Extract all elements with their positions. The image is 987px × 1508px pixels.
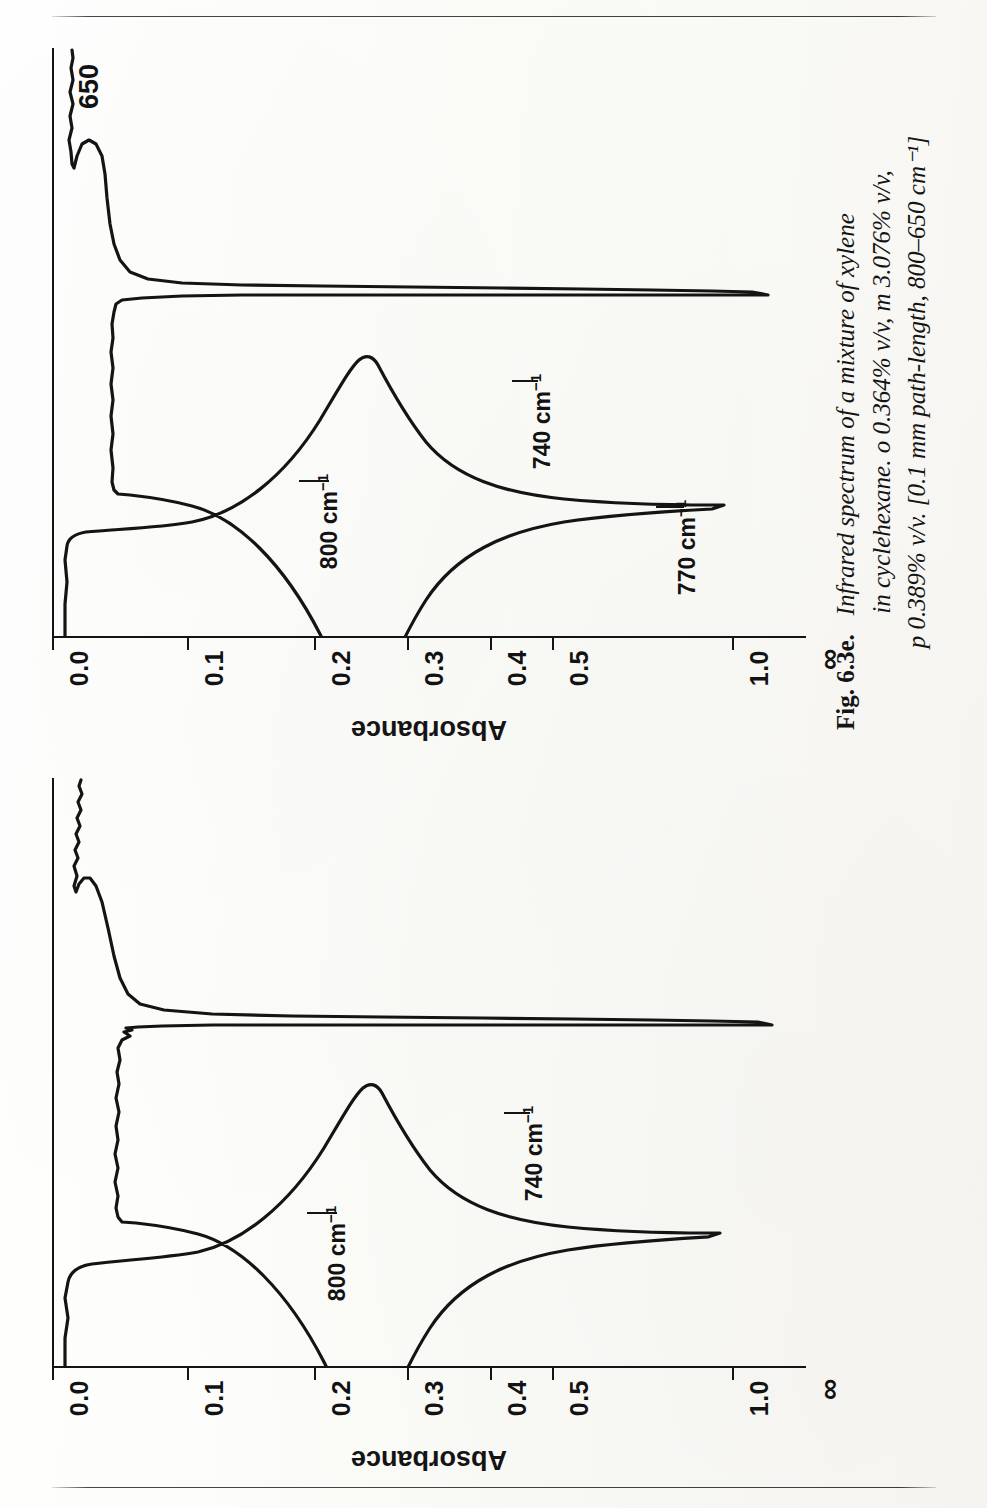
peak-label-e-740-sup: −1 bbox=[527, 374, 544, 391]
tick-label-e-2: 0.2 bbox=[327, 650, 356, 686]
tick-f-5 bbox=[552, 1368, 554, 1380]
tick-f-1 bbox=[187, 1368, 189, 1380]
peak-label-f-740-sup: −1 bbox=[519, 1106, 536, 1123]
caption-6-3e-text-0: Infrared spectrum of a mixture of xylene bbox=[832, 213, 859, 615]
peak-label-e-800: 800 cm−1 bbox=[314, 474, 343, 569]
tick-f-0 bbox=[52, 1368, 54, 1380]
tick-label-e-6: 1.0 bbox=[745, 650, 774, 686]
tick-e-0 bbox=[52, 638, 54, 650]
peak-label-e-770: 770 cm−1 bbox=[672, 500, 701, 595]
spectrum-trace-6-3f bbox=[52, 778, 806, 1368]
tick-label-f-3: 0.3 bbox=[420, 1380, 449, 1416]
tick-e-2 bbox=[314, 638, 316, 650]
peak-label-e-770-sup: −1 bbox=[672, 500, 689, 517]
tick-label-e-3: 0.3 bbox=[420, 650, 449, 686]
tick-e-6 bbox=[732, 638, 734, 650]
tick-label-f-0: 0.0 bbox=[65, 1380, 94, 1416]
peak-label-e-740-text: 740 cm bbox=[529, 391, 555, 469]
caption-6-3e-line-1: in cyclehexane. o 0.364% v/v, m 3.076% v… bbox=[864, 54, 900, 730]
peak-label-e-740: 740 cm−1 bbox=[527, 374, 556, 469]
tick-label-e-1: 0.1 bbox=[200, 650, 229, 686]
page-rule-top bbox=[52, 16, 936, 17]
plot-area-6-3e: 0.0 0.1 0.2 0.3 0.4 0.5 1.0 ∞ Absorbance… bbox=[52, 48, 806, 638]
figure-6-3e: 0.0 0.1 0.2 0.3 0.4 0.5 1.0 ∞ Absorbance… bbox=[0, 30, 987, 730]
tick-label-f-4: 0.4 bbox=[503, 1380, 532, 1416]
tick-e-4 bbox=[490, 638, 492, 650]
plot-area-6-3f: 0.0 0.1 0.2 0.3 0.4 0.5 1.0 ∞ Absorbance… bbox=[52, 778, 806, 1368]
peak-label-f-740: 740 cm−1 bbox=[519, 1106, 548, 1201]
peak-label-f-800-text: 800 cm bbox=[324, 1223, 350, 1301]
peak-label-f-800: 800 cm−1 bbox=[322, 1206, 351, 1301]
peak-label-f-800-sup: −1 bbox=[322, 1206, 339, 1223]
tick-label-e-5: 0.5 bbox=[565, 650, 594, 686]
figure-6-3f: 0.0 0.1 0.2 0.3 0.4 0.5 1.0 ∞ Absorbance… bbox=[0, 760, 987, 1460]
tick-e-5 bbox=[552, 638, 554, 650]
tick-f-6 bbox=[732, 1368, 734, 1380]
end-label-e-650: 650 bbox=[74, 64, 105, 109]
caption-6-3e-number: Fig. 6.3e. bbox=[832, 634, 859, 730]
peak-label-e-800-sup: −1 bbox=[314, 474, 331, 491]
axis-title-absorbance-f: Absorbance bbox=[52, 1444, 806, 1475]
tick-f-4 bbox=[490, 1368, 492, 1380]
page-rule-bottom bbox=[52, 1487, 936, 1488]
caption-6-3e-line-2: p 0.389% v/v. [0.1 mm path-length, 800–6… bbox=[899, 54, 935, 730]
tick-label-f-6: 1.0 bbox=[745, 1380, 774, 1416]
axis-title-absorbance-e: Absorbance bbox=[52, 714, 806, 745]
tick-label-e-4: 0.4 bbox=[503, 650, 532, 686]
tick-label-f-7: ∞ bbox=[812, 1378, 846, 1400]
tick-f-2 bbox=[314, 1368, 316, 1380]
tick-e-1 bbox=[187, 638, 189, 650]
tick-f-3 bbox=[407, 1368, 409, 1380]
caption-6-3e: Fig. 6.3e. Infrared spectrum of a mixtur… bbox=[828, 54, 935, 730]
tick-label-f-1: 0.1 bbox=[200, 1380, 229, 1416]
tick-label-f-5: 0.5 bbox=[565, 1380, 594, 1416]
peak-label-e-800-text: 800 cm bbox=[316, 491, 342, 569]
caption-6-3e-line-0: Fig. 6.3e. Infrared spectrum of a mixtur… bbox=[828, 54, 864, 730]
peak-label-f-740-text: 740 cm bbox=[521, 1123, 547, 1201]
tick-label-e-0: 0.0 bbox=[65, 650, 94, 686]
tick-e-3 bbox=[407, 638, 409, 650]
tick-label-f-2: 0.2 bbox=[327, 1380, 356, 1416]
peak-label-e-770-text: 770 cm bbox=[674, 517, 700, 595]
